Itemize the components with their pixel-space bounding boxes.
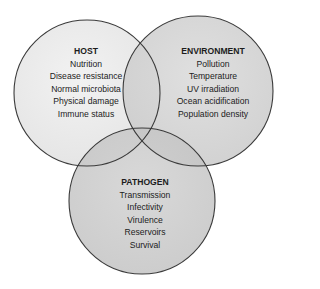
pathogen-item: Reservoirs <box>120 226 171 239</box>
pathogen-item: Virulence <box>120 214 171 227</box>
environment-item: Temperature <box>177 70 250 83</box>
host-item: Physical damage <box>50 95 123 108</box>
environment-item: Pollution <box>177 58 250 71</box>
host-item: Normal microbiota <box>50 83 123 96</box>
pathogen-item: Transmission <box>120 189 171 202</box>
pathogen-label-block: PATHOGEN Transmission Infectivity Virule… <box>120 176 171 252</box>
environment-item: Population density <box>177 108 250 121</box>
host-item: Nutrition <box>50 58 123 71</box>
environment-label-block: ENVIRONMENT Pollution Temperature UV irr… <box>177 45 250 121</box>
host-item: Disease resistance <box>50 70 123 83</box>
environment-item: Ocean acidification <box>177 95 250 108</box>
host-title: HOST <box>50 45 123 58</box>
pathogen-item: Infectivity <box>120 201 171 214</box>
pathogen-title: PATHOGEN <box>120 176 171 189</box>
environment-title: ENVIRONMENT <box>177 45 250 58</box>
pathogen-item: Survival <box>120 239 171 252</box>
environment-item: UV irradiation <box>177 83 250 96</box>
host-item: Immune status <box>50 108 123 121</box>
host-label-block: HOST Nutrition Disease resistance Normal… <box>50 45 123 121</box>
